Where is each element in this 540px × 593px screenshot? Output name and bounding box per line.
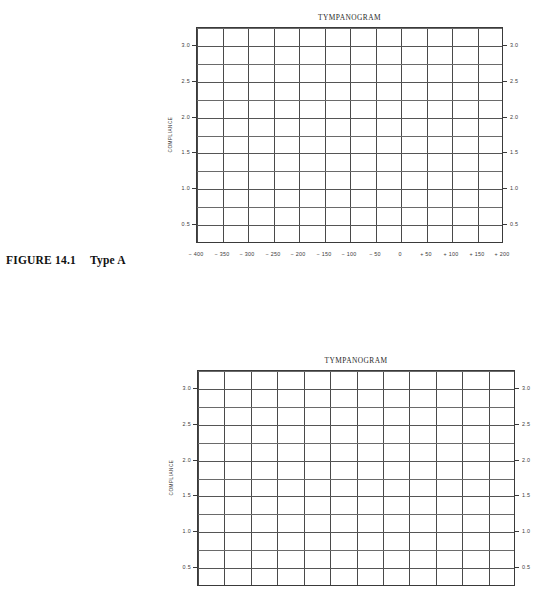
- y-tick-mark-left: [192, 152, 196, 153]
- y-tick-mark-right: [515, 388, 519, 389]
- grid-line-vertical: [376, 28, 377, 242]
- grid-line-vertical: [350, 28, 351, 242]
- y-tick-mark-right: [503, 117, 507, 118]
- grid-line-vertical: [224, 371, 225, 585]
- grid-line-vertical: [478, 28, 479, 242]
- y-tick-label-left: 3.0: [175, 385, 191, 391]
- y-tick-label-left: 1.5: [175, 492, 191, 498]
- y-tick-mark-left: [193, 531, 197, 532]
- y-tick-label-right: 0.5: [510, 221, 526, 227]
- grid-line-horizontal: [197, 118, 502, 119]
- grid-line-horizontal: [198, 407, 514, 408]
- y-tick-mark-left: [193, 424, 197, 425]
- x-tick-label: − 100: [342, 251, 357, 257]
- chart-title: TYMPANOGRAM: [197, 356, 515, 365]
- grid-line-vertical: [197, 28, 198, 242]
- grid-layer: [197, 28, 502, 242]
- grid-line-vertical: [198, 371, 199, 585]
- grid-line-vertical: [489, 371, 490, 585]
- grid-line-vertical: [330, 371, 331, 585]
- y-tick-label-left: 2.0: [175, 457, 191, 463]
- grid-line-horizontal: [197, 82, 502, 83]
- grid-line-horizontal: [197, 171, 502, 172]
- grid-line-horizontal: [198, 371, 514, 372]
- y-tick-label-right: 1.0: [522, 528, 538, 534]
- grid-line-horizontal: [198, 479, 514, 480]
- grid-line-vertical: [325, 28, 326, 242]
- chart-title: TYMPANOGRAM: [196, 13, 503, 22]
- y-tick-mark-left: [192, 117, 196, 118]
- grid-line-vertical: [427, 28, 428, 242]
- x-tick-label: + 150: [470, 251, 485, 257]
- grid-line-vertical: [251, 371, 252, 585]
- grid-line-horizontal: [197, 153, 502, 154]
- y-tick-mark-left: [192, 81, 196, 82]
- x-tick-label: − 300: [240, 251, 255, 257]
- y-tick-label-left: 3.0: [174, 42, 190, 48]
- tympanogram-chart-top: TYMPANOGRAM COMPLIANCE 3.03.02.52.52.02.…: [196, 27, 503, 243]
- grid-line-horizontal: [198, 461, 514, 462]
- grid-line-vertical: [357, 371, 358, 585]
- x-tick-label: + 200: [495, 251, 510, 257]
- y-tick-label-left: 0.5: [174, 221, 190, 227]
- y-tick-label-right: 0.5: [522, 564, 538, 570]
- y-tick-label-left: 0.5: [175, 564, 191, 570]
- grid-line-vertical: [223, 28, 224, 242]
- grid-line-horizontal: [197, 46, 502, 47]
- x-tick-label: + 50: [420, 251, 432, 257]
- grid-line-vertical: [452, 28, 453, 242]
- y-tick-mark-right: [515, 495, 519, 496]
- x-tick-label: 0: [398, 251, 401, 257]
- x-tick-label: − 50: [369, 251, 381, 257]
- y-tick-mark-left: [193, 495, 197, 496]
- grid-line-horizontal: [198, 514, 514, 515]
- grid-line-horizontal: [198, 425, 514, 426]
- y-tick-label-right: 3.0: [510, 42, 526, 48]
- x-tick-label: + 100: [444, 251, 459, 257]
- grid-line-horizontal: [198, 496, 514, 497]
- y-tick-label-left: 1.0: [174, 185, 190, 191]
- grid-line-horizontal: [197, 136, 502, 137]
- grid-line-horizontal: [198, 568, 514, 569]
- y-tick-mark-left: [192, 188, 196, 189]
- plot-frame: [196, 27, 503, 243]
- grid-line-horizontal: [198, 443, 514, 444]
- y-tick-label-left: 2.5: [175, 421, 191, 427]
- y-tick-mark-right: [515, 567, 519, 568]
- y-tick-mark-right: [503, 188, 507, 189]
- y-tick-mark-right: [503, 45, 507, 46]
- y-tick-mark-right: [515, 531, 519, 532]
- grid-line-horizontal: [197, 100, 502, 101]
- y-tick-mark-right: [503, 224, 507, 225]
- figure-number: FIGURE 14.1: [6, 254, 76, 266]
- grid-line-vertical: [383, 371, 384, 585]
- grid-line-horizontal: [198, 389, 514, 390]
- y-tick-label-right: 1.5: [510, 149, 526, 155]
- grid-line-vertical: [277, 371, 278, 585]
- grid-line-vertical: [462, 371, 463, 585]
- grid-line-vertical: [304, 371, 305, 585]
- grid-line-horizontal: [197, 189, 502, 190]
- grid-line-horizontal: [198, 532, 514, 533]
- y-tick-mark-right: [515, 460, 519, 461]
- y-tick-label-left: 1.5: [174, 149, 190, 155]
- y-tick-mark-right: [503, 152, 507, 153]
- y-tick-label-left: 2.5: [174, 78, 190, 84]
- y-tick-label-right: 3.0: [522, 385, 538, 391]
- grid-line-horizontal: [197, 28, 502, 29]
- x-tick-label: − 250: [266, 251, 281, 257]
- y-tick-mark-left: [192, 45, 196, 46]
- y-tick-label-right: 1.0: [510, 185, 526, 191]
- grid-line-horizontal: [198, 550, 514, 551]
- y-tick-mark-left: [192, 224, 196, 225]
- grid-line-horizontal: [197, 64, 502, 65]
- figure-caption: FIGURE 14.1Type A: [6, 254, 126, 266]
- y-tick-mark-right: [515, 424, 519, 425]
- figure-type-label: Type A: [90, 254, 126, 266]
- y-tick-mark-right: [503, 81, 507, 82]
- grid-line-horizontal: [197, 225, 502, 226]
- grid-line-vertical: [274, 28, 275, 242]
- y-axis-label: COMPLIANCE: [169, 448, 174, 508]
- x-tick-label: − 350: [215, 251, 230, 257]
- y-tick-label-right: 1.5: [522, 492, 538, 498]
